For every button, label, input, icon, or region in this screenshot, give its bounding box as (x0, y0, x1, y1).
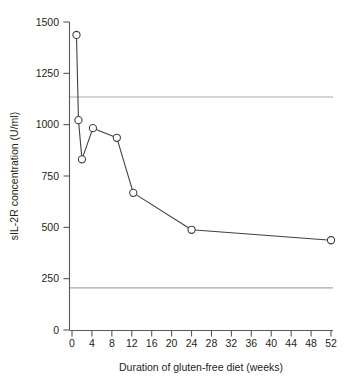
y-tick-label: 250 (41, 272, 59, 284)
x-tick-label: 16 (146, 337, 158, 349)
x-tick-label: 52 (325, 337, 337, 349)
x-tick-label: 40 (265, 337, 277, 349)
x-tick-label: 36 (245, 337, 257, 349)
x-tick-label: 28 (206, 337, 218, 349)
x-axis-title: Duration of gluten-free diet (weeks) (119, 361, 283, 373)
data-point-marker (78, 156, 85, 163)
y-tick-label: 750 (41, 170, 59, 182)
y-tick-label: 1500 (36, 16, 60, 28)
x-tick-label: 8 (109, 337, 115, 349)
data-point-marker (130, 189, 137, 196)
y-tick-label: 1250 (36, 67, 60, 79)
x-tick-label: 32 (226, 337, 238, 349)
x-tick-label: 44 (285, 337, 297, 349)
x-tick-label: 0 (69, 337, 75, 349)
x-tick-label: 24 (186, 337, 198, 349)
chart-figure: 0250500750100012501500 04812162024283236… (0, 0, 353, 388)
x-tick-label: 20 (166, 337, 178, 349)
data-point-marker (73, 31, 80, 38)
y-axis-title: sIL-2R concentration (U/ml) (8, 112, 20, 240)
data-point-marker (75, 117, 82, 124)
data-point-marker (89, 125, 96, 132)
data-point-marker (113, 134, 120, 141)
y-tick-label: 500 (41, 221, 59, 233)
y-tick-label: 0 (53, 324, 59, 336)
sil2r-line-chart: 0250500750100012501500 04812162024283236… (0, 0, 353, 388)
x-tick-label: 4 (89, 337, 95, 349)
data-point-marker (327, 237, 334, 244)
x-tick-label: 48 (305, 337, 317, 349)
x-tick-label: 12 (126, 337, 138, 349)
y-tick-label: 1000 (36, 118, 60, 130)
data-point-marker (188, 226, 195, 233)
